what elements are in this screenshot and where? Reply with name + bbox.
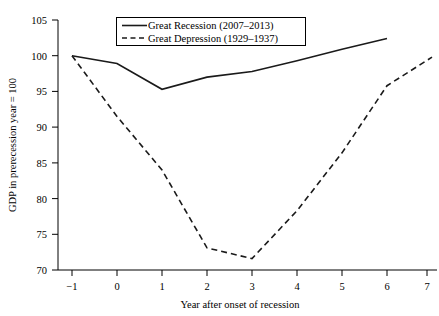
y-tick-label-85: 85 (37, 158, 48, 169)
x-tick-label--1: −1 (66, 281, 77, 292)
y-tick-label-100: 100 (31, 51, 47, 62)
y-tick-label-90: 90 (37, 122, 48, 133)
legend-label-great-depression: Great Depression (1929–1937) (148, 33, 279, 45)
legend-label-great-recession: Great Recession (2007–2013) (148, 20, 274, 32)
x-tick-label-0: 0 (114, 281, 119, 292)
x-tick-label-7: 7 (424, 281, 429, 292)
y-tick-label-95: 95 (37, 86, 48, 97)
y-axis-title: GDP in prerecession year = 100 (7, 78, 18, 212)
line-chart-svg: 105 100 95 90 85 80 75 70 GDP in prerece… (0, 0, 439, 316)
x-tick-label-1: 1 (159, 281, 164, 292)
y-tick-label-80: 80 (37, 194, 48, 205)
chart-background (0, 0, 439, 316)
y-tick-label-70: 70 (37, 265, 48, 276)
x-tick-label-4: 4 (294, 281, 300, 292)
x-tick-label-6: 6 (384, 281, 389, 292)
y-tick-label-105: 105 (31, 15, 47, 26)
x-tick-label-2: 2 (204, 281, 209, 292)
x-tick-label-5: 5 (339, 281, 344, 292)
x-axis-title: Year after onset of recession (180, 299, 300, 310)
chart-figure: 105 100 95 90 85 80 75 70 GDP in prerece… (0, 0, 439, 316)
x-tick-label-3: 3 (249, 281, 254, 292)
y-tick-label-75: 75 (37, 229, 48, 240)
chart-legend: Great Recession (2007–2013) Great Depres… (117, 18, 306, 46)
